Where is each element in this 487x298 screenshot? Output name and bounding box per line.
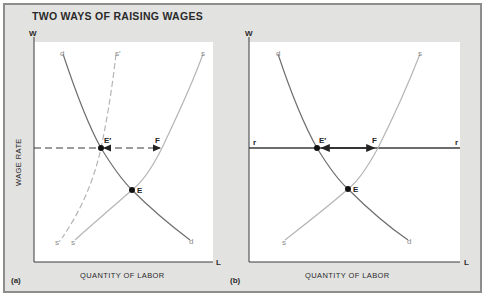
demand-label-top-a: d [60, 49, 64, 58]
x-axis-letter-b: L [464, 258, 469, 267]
point-e-prime-label-b: E′ [319, 136, 326, 145]
demand-label-bottom-b: d [407, 237, 411, 246]
diagram-canvas: TWO WAYS OF RAISING WAGES W L WAGE RATE … [0, 0, 487, 298]
plot-area-a [34, 42, 213, 262]
shifted-supply-label-top-a: s′ [115, 49, 121, 58]
supply-label-top-b: s [418, 49, 422, 58]
plot-area-b [249, 42, 460, 262]
supply-label-bottom-b: s [282, 238, 286, 247]
point-e-prime-label-a: E′ [104, 136, 111, 145]
panel-b: W L QUANTITY OF LABOR (b) r r d d s s E′… [230, 29, 469, 285]
wage-line-label-right-b: r [455, 138, 458, 147]
point-e-label-a: E [137, 186, 143, 195]
x-axis-letter-a: L [216, 258, 221, 267]
point-e-b [345, 186, 351, 192]
panel-label-a: (a) [11, 276, 21, 285]
y-axis-letter-b: W [245, 29, 253, 38]
y-axis-title-a: WAGE RATE [14, 138, 23, 186]
supply-label-top-a: s [201, 49, 205, 58]
point-e-label-b: E [353, 185, 359, 194]
point-e-prime-a [98, 145, 104, 151]
figure-title: TWO WAYS OF RAISING WAGES [32, 10, 203, 22]
wage-line-label-left-b: r [253, 138, 256, 147]
supply-label-bottom-a: s [71, 238, 75, 247]
shifted-supply-label-bottom-a: s′ [55, 238, 61, 247]
point-e-a [129, 187, 135, 193]
y-axis-letter-a: W [29, 29, 37, 38]
x-axis-title-b: QUANTITY OF LABOR [305, 271, 390, 280]
point-f-label-b: F [372, 136, 377, 145]
demand-label-top-b: d [276, 49, 280, 58]
point-e-prime-b [314, 145, 320, 151]
demand-label-bottom-a: d [189, 237, 193, 246]
panel-a: W L WAGE RATE QUANTITY OF LABOR (a) d d … [11, 29, 221, 285]
panel-label-b: (b) [230, 276, 241, 285]
x-axis-title-a: QUANTITY OF LABOR [80, 271, 165, 280]
point-f-label-a: F [155, 136, 160, 145]
